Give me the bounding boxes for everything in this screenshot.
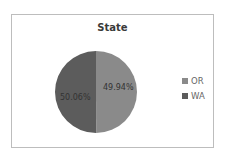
legend-item-wa: WA <box>182 90 205 102</box>
legend: OR WA <box>182 75 205 105</box>
slice-label-or: 49.94% <box>103 83 134 92</box>
legend-label-or: OR <box>191 76 204 86</box>
legend-swatch-wa <box>182 93 188 99</box>
legend-item-or: OR <box>182 75 205 87</box>
legend-label-wa: WA <box>191 91 205 101</box>
slice-label-wa: 50.06% <box>60 93 91 102</box>
legend-swatch-or <box>182 78 188 84</box>
pie-slice-wa <box>55 51 96 133</box>
